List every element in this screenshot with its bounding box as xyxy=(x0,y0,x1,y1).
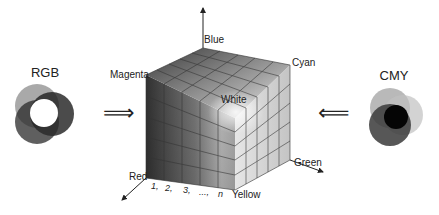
label-green: Green xyxy=(294,157,322,168)
rgb-cmy-diagram: RGB ⟹ CMY ⟸ xyxy=(0,0,439,215)
svg-text:2,: 2, xyxy=(164,183,173,193)
label-blue: Blue xyxy=(204,34,224,45)
color-cube xyxy=(146,48,290,190)
cmy-title: CMY xyxy=(380,68,409,83)
svg-text:3,: 3, xyxy=(183,185,191,195)
svg-text:...,: ..., xyxy=(199,187,209,197)
black-overlap xyxy=(384,105,408,129)
label-yellow: Yellow xyxy=(232,189,261,200)
rgb-venn: RGB xyxy=(15,65,74,144)
label-cyan: Cyan xyxy=(292,57,315,68)
white-overlap xyxy=(30,99,58,127)
svg-text:1,: 1, xyxy=(151,181,159,191)
label-red: Red xyxy=(129,171,147,182)
rgb-title: RGB xyxy=(31,65,59,80)
svg-text:n: n xyxy=(218,189,223,199)
arrow-left-icon: ⟸ xyxy=(318,100,350,125)
label-magenta: Magenta xyxy=(110,69,149,80)
label-white: White xyxy=(221,94,247,105)
arrow-right-icon: ⟹ xyxy=(103,100,135,125)
cmy-venn: CMY xyxy=(369,68,423,146)
